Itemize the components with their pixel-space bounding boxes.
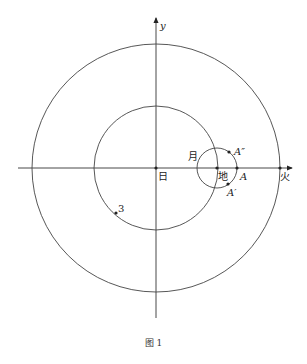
earth-label: 地 xyxy=(218,170,228,182)
y-axis-label: y xyxy=(159,20,166,31)
point-A-double-prime xyxy=(227,150,230,153)
A-prime-label: A′ xyxy=(226,187,237,198)
point-3-label: 3 xyxy=(118,203,124,214)
point-A xyxy=(235,166,238,169)
sun-label: 日 xyxy=(158,171,168,182)
A-double-prime-label: A″ xyxy=(233,146,245,157)
point-A-prime xyxy=(226,182,229,185)
mars-label: 火 xyxy=(280,171,290,182)
orbit-diagram: y 日 地 月 火 A A′ A″ 3 xyxy=(0,0,307,364)
sun-point xyxy=(154,166,157,169)
A-label: A xyxy=(239,171,247,182)
moon-label: 月 xyxy=(188,151,198,162)
earth-point xyxy=(215,166,218,169)
mars-point xyxy=(278,166,281,169)
figure-caption: 图 1 xyxy=(0,336,307,349)
